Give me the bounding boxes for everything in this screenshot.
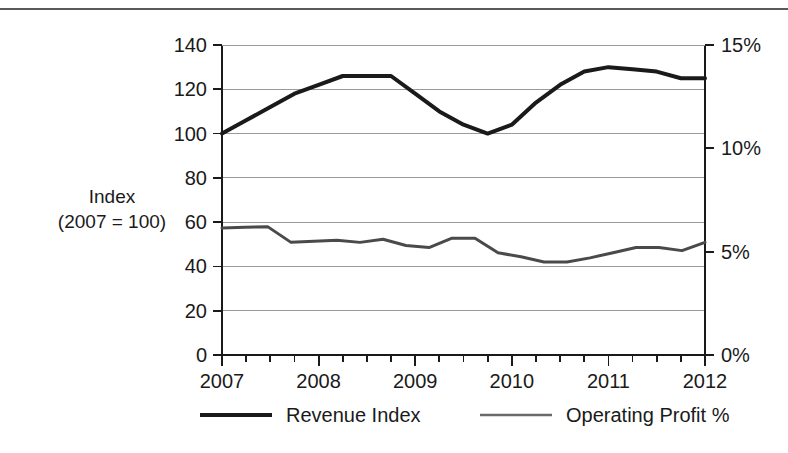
y-left-tick-marks <box>213 45 222 355</box>
x-tick-label: 2007 <box>200 370 245 392</box>
dual-axis-line-chart: 020406080100120140 0%5%10%15% 2007200820… <box>0 0 788 453</box>
y-right-tick-marks <box>705 45 714 355</box>
x-tick-label: 2011 <box>587 370 630 392</box>
y-right-tick-label: 10% <box>721 137 761 159</box>
x-tick-label: 2008 <box>296 370 341 392</box>
y-right-tick-labels: 0%5%10%15% <box>721 34 761 366</box>
chart-figure: 020406080100120140 0%5%10%15% 2007200820… <box>0 0 788 453</box>
y-left-tick-label: 120 <box>174 78 207 100</box>
x-tick-marks <box>222 355 705 366</box>
legend-label: Operating Profit % <box>566 404 730 426</box>
x-tick-label: 2012 <box>683 370 728 392</box>
y-right-tick-label: 0% <box>721 344 750 366</box>
x-tick-label: 2009 <box>393 370 438 392</box>
y-right-tick-label: 5% <box>721 241 750 263</box>
y-left-tick-label: 100 <box>174 123 207 145</box>
y-axis-title-line-1: Index <box>89 186 136 207</box>
y-left-tick-label: 0 <box>196 344 207 366</box>
y-axis-title-group: Index (2007 = 100) <box>58 186 166 232</box>
y-right-tick-label: 15% <box>721 34 761 56</box>
y-left-tick-label: 80 <box>185 167 207 189</box>
y-left-tick-labels: 020406080100120140 <box>174 34 207 366</box>
y-left-tick-label: 60 <box>185 211 207 233</box>
series-line-revenue-index <box>222 67 705 133</box>
data-series-group <box>222 67 705 262</box>
y-axis-title-line-2: (2007 = 100) <box>58 211 166 232</box>
x-tick-labels: 200720082009201020112012 <box>200 370 728 392</box>
gridlines-group <box>222 45 705 311</box>
y-left-tick-label: 40 <box>185 255 207 277</box>
y-left-tick-label: 140 <box>174 34 207 56</box>
x-tick-label: 2010 <box>490 370 535 392</box>
y-left-tick-label: 20 <box>185 300 207 322</box>
series-line-operating-profit <box>222 227 705 262</box>
chart-legend: Revenue IndexOperating Profit % <box>200 404 730 426</box>
legend-label: Revenue Index <box>286 404 421 426</box>
plot-frame <box>222 45 705 355</box>
